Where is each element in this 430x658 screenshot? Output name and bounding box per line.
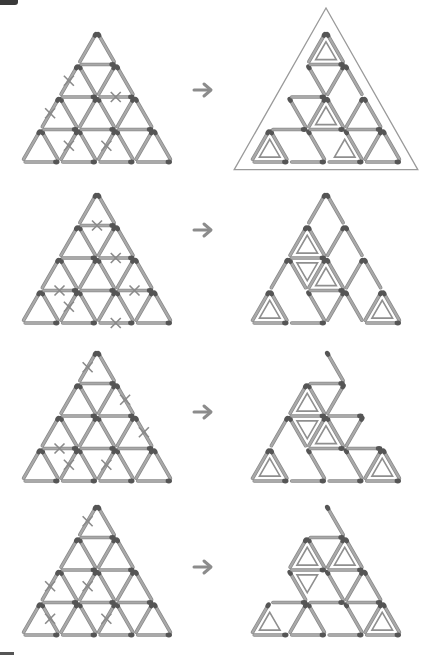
matchstick [361, 569, 380, 600]
matchstick [24, 601, 43, 632]
right-arrow-icon [194, 406, 211, 418]
match-head [53, 479, 59, 484]
puzzle-2-initial-grid [24, 192, 172, 328]
matchstick [253, 601, 272, 632]
puzzle-4 [24, 504, 401, 638]
matchstick [305, 224, 324, 255]
match-head [338, 600, 344, 605]
matchstick [81, 62, 115, 67]
matchstick [292, 479, 326, 484]
matchstick [290, 536, 309, 567]
match-head [109, 600, 115, 605]
matchstick [343, 601, 362, 632]
match-head [128, 95, 134, 100]
matchstick [57, 257, 76, 288]
matchstick [151, 289, 170, 320]
match-head [53, 321, 59, 326]
matchstick [138, 633, 172, 638]
matchstick [99, 382, 118, 413]
matchstick [80, 31, 99, 62]
matchstick [290, 224, 309, 255]
matchstick [329, 568, 363, 573]
match-head [72, 288, 78, 293]
match-head [128, 256, 134, 261]
matchstick [25, 160, 59, 165]
matchstick [273, 127, 307, 132]
matchstick [57, 415, 76, 446]
matchstick [95, 415, 114, 446]
matchstick [367, 321, 401, 326]
matchstick [151, 128, 170, 159]
matchstick [57, 569, 76, 600]
match-head [109, 62, 115, 67]
match-head [376, 600, 382, 605]
matchstick [119, 600, 153, 605]
match-head [338, 288, 344, 293]
match-head [320, 633, 326, 638]
matchstick [100, 568, 134, 573]
puzzle-4-initial-grid [24, 504, 172, 638]
match-head [166, 321, 172, 326]
matchstick [24, 128, 43, 159]
matchstick [138, 160, 172, 165]
match-head [72, 127, 78, 132]
matchstick [292, 633, 326, 638]
match-head [376, 127, 382, 132]
matchstick [80, 257, 99, 288]
matchstick [309, 192, 328, 223]
matchstick [346, 415, 365, 446]
puzzle-3 [24, 350, 401, 484]
matchstick [114, 63, 133, 94]
match-head [128, 633, 134, 638]
matchstick [132, 96, 151, 127]
match-head [338, 127, 344, 132]
match-head [128, 414, 134, 419]
matchstick [271, 415, 290, 446]
matchstick [310, 535, 344, 540]
matchstick [380, 447, 399, 478]
puzzle-1 [24, 8, 418, 170]
matchstick [136, 128, 155, 159]
matchstick [329, 479, 363, 484]
matchstick [100, 414, 134, 419]
matchstick [253, 289, 272, 320]
matchstick [329, 160, 363, 165]
matchstick [25, 321, 59, 326]
matchstick [348, 446, 382, 451]
matchstick [136, 601, 155, 632]
match-head [376, 446, 382, 451]
matchstick [119, 127, 153, 132]
matchstick [61, 224, 80, 255]
matchstick [119, 446, 153, 451]
matchstick [329, 414, 363, 419]
match-head [128, 568, 134, 573]
puzzle-4-solution [253, 504, 401, 638]
matchstick [310, 381, 344, 386]
match-head [53, 160, 59, 165]
matchstick [292, 160, 326, 165]
matchstick [99, 289, 118, 320]
matchstick [365, 128, 384, 159]
match-head [147, 600, 153, 605]
matchstick [95, 350, 114, 381]
matchstick [63, 321, 97, 326]
matchstick [114, 536, 133, 567]
match-head [91, 95, 97, 100]
match-head [109, 288, 115, 293]
match-head [166, 479, 172, 484]
match-head [147, 446, 153, 451]
matchstick [348, 127, 382, 132]
matchstick [292, 95, 326, 100]
match-head [301, 127, 307, 132]
matchstick [380, 601, 399, 632]
puzzle-2 [24, 192, 401, 328]
match-head [338, 381, 344, 386]
matchstick [324, 192, 343, 223]
matchstick [343, 128, 362, 159]
matchstick [76, 447, 95, 478]
match-head [320, 256, 326, 261]
match-head [282, 321, 288, 326]
matchstick [95, 569, 114, 600]
right-arrow-icon [194, 84, 211, 96]
matchstick [343, 224, 362, 255]
